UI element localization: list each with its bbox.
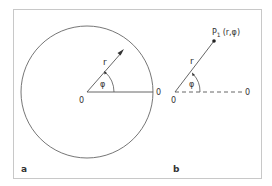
radius-label-a: r	[103, 57, 107, 67]
point-label-p1: P1(r,φ)	[212, 28, 240, 38]
angle-label-a: φ	[100, 80, 105, 89]
panel-b: r φ 0 0 P1(r,φ) b	[171, 28, 250, 174]
panel-a: r φ 0 0 a	[21, 26, 161, 174]
axis-end-label-b: 0	[245, 88, 250, 97]
origin-label-a: 0	[79, 96, 84, 105]
point-p1	[212, 39, 216, 43]
point-subscript: 1	[217, 31, 221, 38]
panel-label-a: a	[21, 164, 27, 174]
point-coords: (r,φ)	[223, 28, 240, 37]
radius-vector-b	[175, 41, 214, 92]
angle-arc-a	[105, 72, 114, 92]
origin-label-b: 0	[171, 96, 176, 105]
arrowhead-icon	[118, 49, 125, 56]
panel-label-b: b	[173, 164, 180, 174]
radius-label-b: r	[190, 56, 194, 66]
polar-coordinates-figure: r φ 0 0 a r φ 0 0 P1(r,φ) b	[0, 0, 272, 186]
angle-label-b: φ	[189, 80, 194, 89]
axis-end-label-a: 0	[156, 88, 161, 97]
